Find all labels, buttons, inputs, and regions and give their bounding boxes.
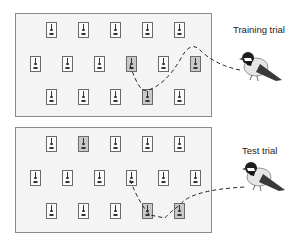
- test-flight-path: [130, 180, 245, 218]
- training-flight-path: [130, 47, 240, 91]
- chickadee-bird-icon: [239, 52, 282, 81]
- chickadee-bird-icon: [242, 162, 285, 191]
- flight-paths: [0, 0, 304, 243]
